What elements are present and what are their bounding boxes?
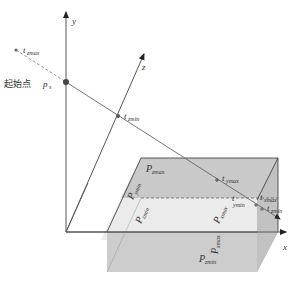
z-axis-to-box — [66, 183, 88, 232]
t-zmax-label: t zmax — [23, 45, 40, 56]
t-zmin-label: t zmin — [124, 111, 139, 122]
t-zmin-end-point — [260, 207, 264, 211]
t-symbol: t — [23, 45, 26, 55]
box-front-face — [107, 232, 257, 272]
z-axis-label: z — [141, 62, 146, 72]
t-subscript: ymin — [232, 202, 245, 208]
t-subscript: ymax — [225, 178, 239, 184]
t-symbol: t — [124, 111, 127, 121]
p-subscript: zmin — [204, 259, 216, 265]
t-subscript: zmax — [26, 50, 40, 56]
start-point — [63, 79, 69, 85]
t-ymax-point — [215, 178, 219, 182]
t-xmax-point — [254, 203, 258, 207]
t-subscript: zmin — [127, 116, 139, 122]
x-axis-label: x — [282, 242, 287, 252]
box-back-face — [121, 158, 278, 198]
start-point-label: 起始点 — [4, 78, 31, 89]
p-subscript: zmax — [151, 169, 165, 175]
t-subscript: xmax — [263, 197, 277, 203]
t-subscript: zmin — [270, 208, 282, 214]
start-point-symbol: p — [42, 79, 48, 89]
p-subscript: xmax — [215, 235, 221, 249]
t-zmax-point — [14, 48, 17, 51]
start-point-subscript: s — [49, 84, 52, 90]
t-zmin-point — [116, 114, 120, 118]
ray-box-diagram: y x z 起始点 p s t zmax t zmin t ymax t ymi… — [0, 0, 302, 288]
y-axis-label: y — [71, 16, 76, 26]
